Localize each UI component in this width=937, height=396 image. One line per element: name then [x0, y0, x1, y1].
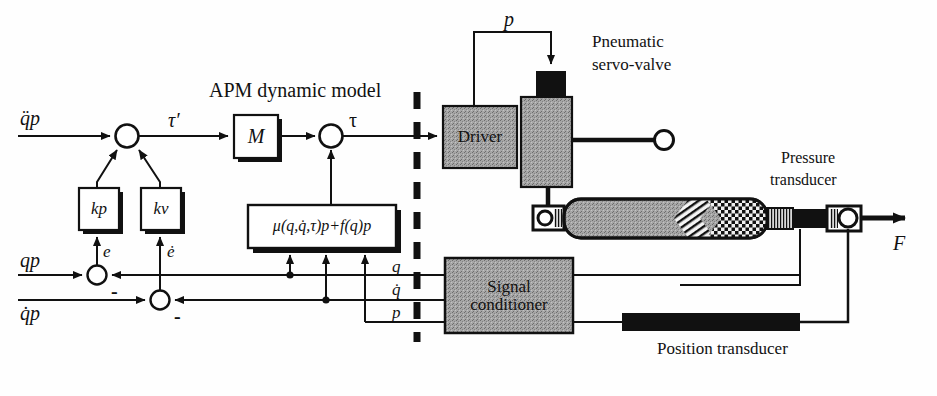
component-position-transducer-bar	[622, 229, 848, 331]
label-tau-prime: τ′	[168, 110, 180, 130]
label-inertia-M: M	[234, 115, 278, 158]
label-feedback-qdot: q̇	[392, 281, 401, 298]
annotation-servo-valve-line1: Pneumatic	[592, 33, 664, 50]
summing-junction-velocity	[151, 291, 170, 310]
label-model-equation: μ(q,q̇,τ)p+f(q)p	[248, 205, 396, 248]
component-pneumatic-muscle-actuator	[564, 199, 769, 238]
wire-feedback-q-to-model	[286, 255, 293, 279]
wire-feedback-qdot-to-model	[322, 255, 329, 304]
label-signal-conditioner: Signal conditioner	[445, 258, 573, 333]
annotation-pressure-transducer-line1: Pressure	[781, 150, 835, 166]
annotation-pressure-transducer-line2: transducer	[770, 172, 837, 188]
label-feedback-q: q	[392, 258, 401, 275]
label-signal-conditioner-line2: conditioner	[470, 296, 547, 314]
block-diagram-canvas: q̈p qp q̇p τ′ τ e ė - - kp kv APM dynami…	[0, 0, 937, 396]
summing-junction-tau-prime	[116, 125, 139, 148]
annotation-servo-valve-line2: servo-valve	[592, 56, 671, 73]
label-gain-kv: kv	[141, 188, 181, 230]
label-error-position: e	[103, 243, 111, 260]
component-actuator-rod	[767, 206, 905, 231]
label-error-velocity: ė	[167, 243, 175, 260]
label-signal-conditioner-line1: Signal	[487, 278, 530, 296]
label-input-accel: q̈p	[20, 108, 40, 128]
label-pressure-command: p	[504, 9, 514, 29]
label-driver: Driver	[443, 106, 517, 168]
label-input-position: qp	[20, 250, 40, 270]
annotation-position-transducer: Position transducer	[657, 340, 788, 357]
summing-junction-position	[88, 266, 107, 285]
label-input-velocity: q̇p	[20, 303, 40, 323]
component-cylinder-inlet-fitting	[533, 206, 564, 230]
component-servo-valve	[521, 71, 674, 208]
label-minus-velocity: -	[174, 306, 181, 326]
label-tau: τ	[349, 110, 357, 130]
label-gain-kp: kp	[79, 188, 119, 230]
label-feedback-p: p	[392, 304, 401, 321]
label-minus-position: -	[111, 281, 118, 301]
label-force-output: F	[893, 233, 905, 253]
section-title-apm: APM dynamic model	[209, 80, 381, 100]
summing-junction-tau	[320, 125, 343, 148]
